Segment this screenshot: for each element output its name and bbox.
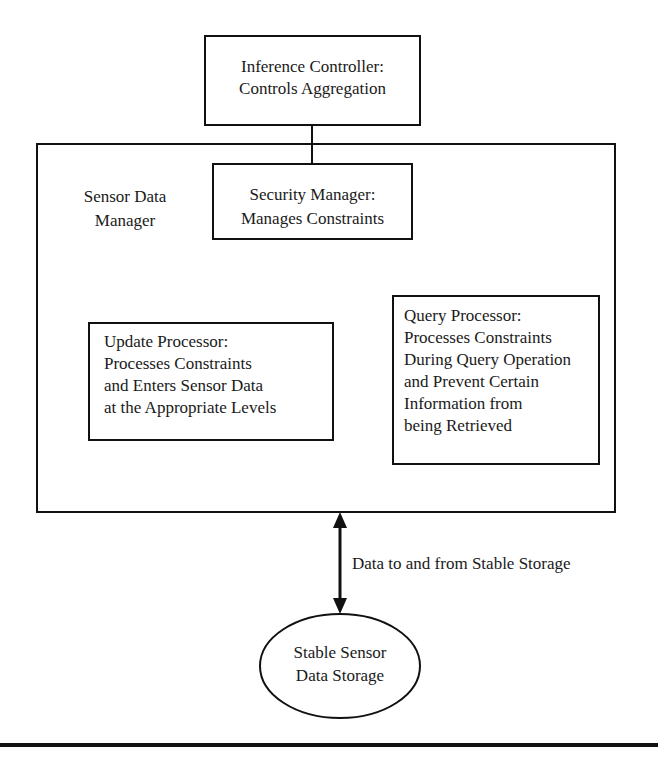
query-processor-line: Information from bbox=[404, 393, 571, 415]
security-manager-subtitle: Manages Constraints bbox=[212, 208, 413, 230]
sensor-data-manager-label-2: Manager bbox=[60, 210, 190, 232]
query-processor-text: Query Processor: Processes Constraints D… bbox=[404, 305, 571, 437]
arrow-down-head bbox=[333, 598, 347, 614]
query-processor-line: being Retrieved bbox=[404, 415, 571, 437]
query-processor-line: Query Processor: bbox=[404, 305, 571, 327]
stable-storage-label-1: Stable Sensor bbox=[260, 642, 420, 664]
query-processor-line: and Prevent Certain bbox=[404, 371, 571, 393]
update-processor-line: at the Appropriate Levels bbox=[104, 397, 276, 419]
update-processor-text: Update Processor: Processes Constraints … bbox=[104, 331, 276, 419]
arrow-up-head bbox=[333, 512, 347, 528]
query-processor-line: During Query Operation bbox=[404, 349, 571, 371]
update-processor-line: Update Processor: bbox=[104, 331, 276, 353]
stable-storage-label-2: Data Storage bbox=[260, 665, 420, 687]
inference-controller-subtitle: Controls Aggregation bbox=[204, 78, 421, 100]
arrow-label: Data to and from Stable Storage bbox=[352, 553, 571, 575]
security-manager-title: Security Manager: bbox=[212, 184, 413, 206]
query-processor-line: Processes Constraints bbox=[404, 327, 571, 349]
update-processor-line: Processes Constraints bbox=[104, 353, 276, 375]
inference-controller-title: Inference Controller: bbox=[204, 56, 421, 78]
update-processor-line: and Enters Sensor Data bbox=[104, 375, 276, 397]
bottom-rule bbox=[0, 743, 658, 747]
sensor-data-manager-label-1: Sensor Data bbox=[60, 186, 190, 208]
